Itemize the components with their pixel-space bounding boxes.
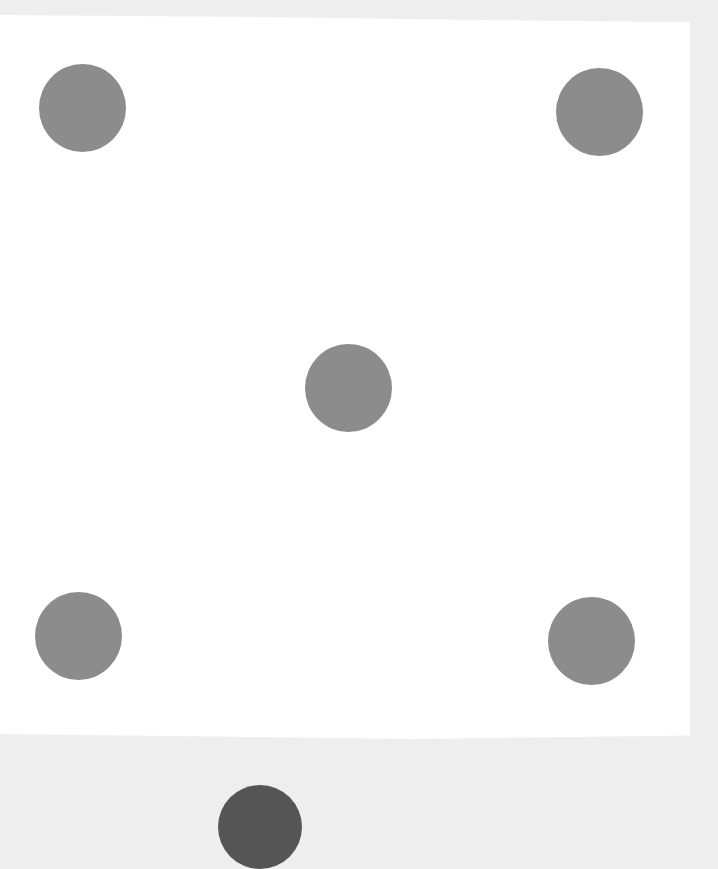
pip-bottom-left [35, 592, 122, 680]
pip-top-left [39, 64, 126, 152]
pip-top-right [556, 68, 643, 156]
pip-bottom-right [548, 597, 635, 685]
pip-center [305, 344, 392, 432]
pip-partial-bottom [218, 785, 302, 869]
